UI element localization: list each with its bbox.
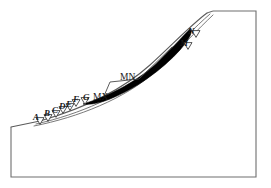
callout-label-mx: MX [93, 93, 108, 103]
slope-diagram-svg [0, 0, 271, 188]
marker-label-c: C [52, 106, 58, 115]
marker-label-m: M [180, 39, 188, 48]
marker-label-a: A [33, 113, 39, 122]
marker-label-g: G [83, 93, 90, 102]
slope-cross-section-figure: ABCDEFGMNMNMX [0, 0, 271, 188]
marker-label-n: N [188, 27, 195, 36]
marker-label-d: D [59, 102, 66, 111]
crest-line [207, 11, 213, 13]
ground-surface-profile [11, 13, 207, 127]
marker-label-b: B [44, 109, 50, 118]
marker-label-e: E [66, 100, 72, 109]
marker-label-f: F [73, 95, 79, 104]
callout-label-mn: MN [120, 73, 135, 83]
outer-border-outline [11, 11, 256, 177]
